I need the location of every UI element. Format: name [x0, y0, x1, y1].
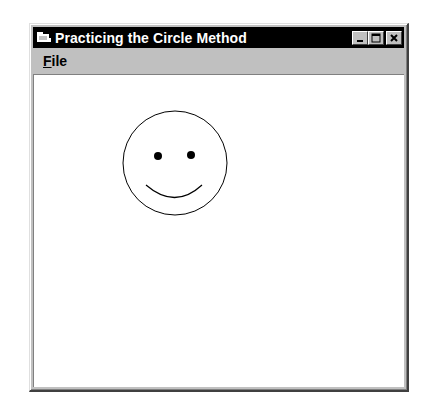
menu-file[interactable]: File — [41, 53, 69, 69]
left-eye — [154, 152, 162, 160]
menu-file-label: ile — [52, 53, 68, 69]
minimize-icon — [355, 33, 365, 43]
minimize-button[interactable] — [352, 31, 368, 45]
right-eye — [187, 151, 195, 159]
form-icon[interactable] — [37, 32, 51, 43]
maximize-icon — [371, 33, 381, 43]
menu-file-mnemonic: F — [43, 53, 52, 69]
window-controls — [352, 31, 402, 45]
drawing-canvas — [34, 75, 406, 389]
smile-arc — [146, 185, 202, 198]
title-bar[interactable]: Practicing the Circle Method — [33, 27, 404, 48]
app-window: Practicing the Circle Method File — [29, 23, 409, 392]
smiley-face-circle — [123, 111, 227, 215]
menu-bar: File — [33, 49, 404, 73]
close-button[interactable] — [386, 31, 402, 45]
window-title: Practicing the Circle Method — [55, 30, 247, 46]
form-client-area[interactable] — [33, 74, 404, 387]
maximize-button[interactable] — [368, 31, 384, 45]
close-icon — [389, 33, 399, 43]
